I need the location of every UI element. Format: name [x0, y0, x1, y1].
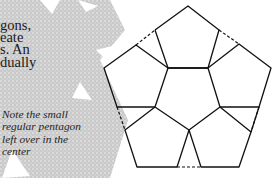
top-pentagon — [155, 6, 219, 68]
pentagon-dissection-diagram — [0, 0, 276, 178]
lower-right-pentagon — [189, 107, 251, 167]
gap-dash-upper-left — [136, 30, 155, 45]
center-pentagon — [155, 68, 220, 130]
lower-left-pentagon — [125, 107, 189, 167]
gap-dash-left — [117, 107, 125, 130]
gap-dash-upper-right — [219, 30, 239, 44]
